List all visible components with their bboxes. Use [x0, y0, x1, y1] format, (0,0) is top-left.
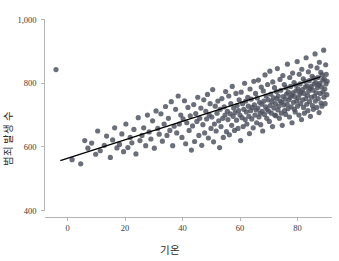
y-tick-label: 400: [0, 206, 37, 216]
data-point: [129, 140, 134, 145]
data-point: [262, 72, 267, 77]
data-point: [261, 88, 266, 93]
data-point: [297, 72, 302, 77]
x-tick-label: 40: [178, 223, 187, 233]
data-point: [270, 79, 275, 84]
data-point: [214, 128, 219, 133]
x-axis-title: 기온: [0, 242, 339, 257]
data-point: [143, 143, 148, 148]
data-point: [299, 117, 304, 122]
x-tick-label: 20: [121, 223, 130, 233]
data-point: [229, 123, 234, 128]
data-point: [312, 51, 317, 56]
data-point: [169, 99, 174, 104]
data-point: [85, 146, 90, 151]
data-point: [277, 116, 282, 121]
data-point: [193, 111, 198, 116]
data-point: [123, 121, 128, 126]
data-point: [219, 96, 224, 101]
data-point: [119, 131, 124, 136]
data-point: [182, 98, 187, 103]
data-point: [230, 84, 235, 89]
data-point: [179, 135, 184, 140]
data-point: [308, 63, 313, 68]
data-point: [110, 137, 115, 142]
data-point: [93, 152, 98, 157]
data-point: [323, 62, 328, 67]
data-point: [191, 102, 196, 107]
data-point: [305, 108, 310, 113]
x-tick-label: 80: [293, 223, 302, 233]
data-point: [218, 124, 223, 129]
data-point: [256, 77, 261, 82]
data-point: [258, 122, 263, 127]
x-tick-label: 0: [65, 223, 69, 233]
data-point: [280, 123, 285, 128]
data-point: [227, 132, 232, 137]
data-point: [296, 112, 301, 117]
data-point: [253, 91, 258, 96]
data-point: [208, 101, 213, 106]
data-point: [299, 67, 304, 72]
data-point: [226, 93, 231, 98]
data-point: [321, 48, 326, 53]
data-point: [324, 72, 329, 77]
data-point: [247, 131, 252, 136]
y-axis-title: 범죄 발생 수: [0, 78, 15, 198]
data-point: [192, 139, 197, 144]
data-point: [265, 82, 270, 87]
data-point: [244, 121, 249, 126]
data-point: [213, 104, 218, 109]
data-point: [221, 135, 226, 140]
data-point: [208, 126, 213, 131]
data-point: [234, 118, 239, 123]
data-point: [95, 128, 100, 133]
data-point: [238, 138, 243, 143]
y-tick-label: 1,000: [0, 15, 37, 25]
data-point: [89, 141, 94, 146]
data-point: [287, 114, 292, 119]
scatter-plot-figure: 4006008001,000 020406080 기온 범죄 발생 수: [0, 0, 339, 261]
data-point: [108, 155, 113, 160]
data-point: [306, 69, 311, 74]
x-tick-label: 60: [236, 223, 245, 233]
data-point: [255, 105, 260, 110]
data-point: [322, 86, 327, 91]
data-point: [267, 69, 272, 74]
data-point: [173, 107, 178, 112]
data-point: [121, 149, 126, 154]
data-point: [82, 138, 87, 143]
data-point: [251, 125, 256, 130]
data-point: [195, 95, 200, 100]
data-point: [201, 97, 206, 102]
data-point: [164, 133, 169, 138]
data-point: [202, 130, 207, 135]
data-point: [308, 114, 313, 119]
data-point: [170, 143, 175, 148]
data-point: [236, 108, 241, 113]
data-point: [267, 119, 272, 124]
data-point: [163, 104, 168, 109]
data-point: [196, 133, 201, 138]
data-point: [162, 121, 167, 126]
data-point: [148, 136, 153, 141]
data-point: [199, 143, 204, 148]
data-point: [141, 125, 146, 130]
data-point: [290, 70, 295, 75]
data-point: [206, 135, 211, 140]
data-point: [304, 55, 309, 60]
data-point: [251, 79, 256, 84]
data-point: [242, 81, 247, 86]
plot-canvas: [0, 0, 339, 261]
data-point: [325, 79, 330, 84]
data-point: [289, 120, 294, 125]
data-point: [174, 130, 179, 135]
data-point: [78, 161, 83, 166]
data-point: [153, 108, 158, 113]
data-point: [150, 118, 155, 123]
data-point: [158, 111, 163, 116]
data-point: [176, 93, 181, 98]
data-point: [166, 116, 171, 121]
data-point: [239, 90, 244, 95]
data-point: [187, 128, 192, 133]
